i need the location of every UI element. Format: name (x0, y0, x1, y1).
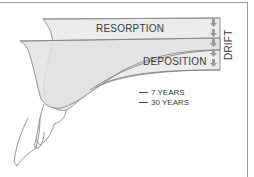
deposition-label: DEPOSITION (143, 56, 207, 67)
legend-line-icon (139, 102, 148, 103)
legend-label: 30 YEARS (151, 98, 189, 107)
resorption-label: RESORPTION (96, 23, 164, 34)
legend-line-icon (139, 92, 148, 93)
chin-outline-7-years (14, 118, 40, 166)
legend-item-30-years: 30 YEARS (139, 97, 189, 107)
legend-label: 7 YEARS (151, 88, 185, 97)
legend-item-7-years: 7 YEARS (139, 87, 189, 97)
legend: 7 YEARS 30 YEARS (139, 87, 189, 107)
drift-label: DRIFT (223, 30, 234, 60)
